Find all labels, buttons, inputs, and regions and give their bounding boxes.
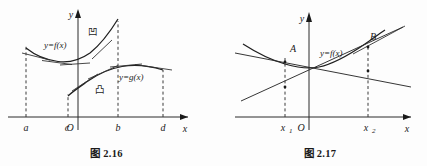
point-B-dot xyxy=(367,46,370,49)
ascending-line xyxy=(241,27,403,101)
y-axis-label: y xyxy=(68,9,74,20)
y-axis-group xyxy=(75,9,81,130)
x-axis-arrow xyxy=(180,114,188,120)
x-tick-label-x2-group: x 2 xyxy=(363,122,376,135)
curve-g-of-x xyxy=(68,66,163,96)
x-axis-group xyxy=(8,114,188,120)
tangent-f-4 xyxy=(92,40,112,59)
x-axis-arrow xyxy=(403,114,411,120)
x-tick-label-x1: x xyxy=(280,122,286,133)
x-axis-label: x xyxy=(404,123,410,134)
x-tick-sub-x2: 2 xyxy=(372,127,376,135)
tangent-g-2 xyxy=(88,66,118,80)
x-tick-label-b: b xyxy=(116,122,121,133)
annotation-concave-up: 凹 xyxy=(88,27,98,37)
point-label-B: B xyxy=(370,31,376,42)
x-tick-label-O: O xyxy=(297,122,304,133)
figure-2-16: O a c b d x y y=f(x) y=g(x) 凹 凸 图 2.16 xyxy=(0,0,213,166)
x-tick-sub-x1: 1 xyxy=(289,127,293,135)
curve-label-f: y=f(x) xyxy=(43,40,67,50)
secant-line-AB xyxy=(235,53,411,87)
curve-f-of-x xyxy=(243,30,385,68)
x-tick-label-c: c xyxy=(65,122,70,133)
point-A-dot xyxy=(284,61,287,64)
annotation-concave-down: 凸 xyxy=(95,85,105,95)
point-label-A: A xyxy=(289,43,297,54)
y-axis-arrow xyxy=(75,9,81,18)
curve-label-f: y=f(x) xyxy=(319,48,343,58)
point-x2-on-secant-line xyxy=(367,70,370,73)
x-tick-label-a: a xyxy=(24,122,29,133)
point-x1-on-ascending-line xyxy=(284,86,287,89)
x-axis-label: x xyxy=(182,123,188,134)
x-axis-group xyxy=(235,114,411,120)
figure-2-17-svg: A B y=f(x) O x 1 x 2 x y xyxy=(213,0,427,140)
curve-f-of-x xyxy=(26,19,118,62)
figure-2-16-svg: O a c b d x y y=f(x) y=g(x) 凹 凸 xyxy=(0,0,213,140)
figure-page: O a c b d x y y=f(x) y=g(x) 凹 凸 图 2.16 xyxy=(0,0,427,166)
curve-label-g: y=g(x) xyxy=(118,72,144,82)
tangent-at-B xyxy=(353,26,405,54)
figure-2-17-caption: 图 2.17 xyxy=(213,145,427,160)
figure-2-17: A B y=f(x) O x 1 x 2 x y 图 2.17 xyxy=(213,0,427,166)
y-axis-arrow xyxy=(306,12,312,22)
x-tick-label-x1-group: x 1 xyxy=(280,122,293,135)
x-tick-label-x2: x xyxy=(363,122,369,133)
tangent-g-4 xyxy=(135,65,172,71)
figure-2-16-caption: 图 2.16 xyxy=(0,145,213,160)
x-tick-label-d: d xyxy=(161,122,167,133)
y-axis-label: y xyxy=(299,13,305,24)
